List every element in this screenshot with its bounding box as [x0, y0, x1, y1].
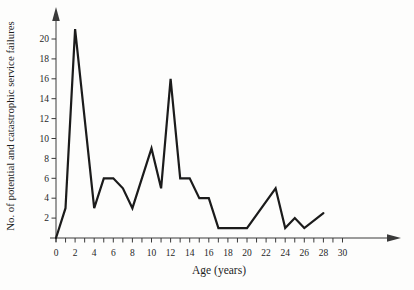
failure-age-line-chart: 0246810121416182022242628302468101214161… [0, 0, 414, 290]
chart-plot-area: 0246810121416182022242628302468101214161… [40, 7, 402, 258]
x-tick-label: 18 [223, 248, 233, 258]
y-tick-label: 12 [40, 114, 50, 124]
x-tick-label: 22 [261, 248, 271, 258]
x-tick-label: 6 [111, 248, 116, 258]
x-tick-label: 14 [185, 248, 195, 258]
x-axis-title: Age (years) [192, 264, 246, 277]
x-tick-label: 4 [92, 248, 97, 258]
x-tick-label: 10 [147, 248, 157, 258]
x-tick-label: 30 [338, 248, 348, 258]
x-tick-label: 26 [300, 248, 310, 258]
y-tick-label: 16 [40, 74, 50, 84]
y-tick-label: 2 [44, 213, 49, 223]
x-tick-label: 0 [54, 248, 59, 258]
x-tick-label: 12 [166, 248, 176, 258]
x-axis-arrowhead-icon [387, 234, 401, 242]
x-tick-label: 16 [204, 248, 214, 258]
y-tick-label: 6 [44, 174, 49, 184]
y-axis-arrowhead-icon [52, 7, 60, 21]
x-tick-label: 28 [319, 248, 329, 258]
x-tick-label: 8 [130, 248, 135, 258]
y-tick-label: 14 [40, 94, 50, 104]
x-tick-label: 2 [73, 248, 78, 258]
y-tick-label: 20 [40, 34, 50, 44]
y-tick-label: 10 [40, 134, 50, 144]
chart-canvas: 0246810121416182022242628302468101214161… [0, 0, 414, 290]
y-tick-label: 4 [44, 193, 49, 203]
x-tick-label: 20 [242, 248, 252, 258]
failure-curve [56, 29, 323, 238]
y-tick-label: 8 [44, 154, 49, 164]
x-tick-label: 24 [280, 248, 290, 258]
y-tick-label: 18 [40, 54, 50, 64]
y-axis-title: No. of potential and catastrophic servic… [4, 21, 16, 231]
